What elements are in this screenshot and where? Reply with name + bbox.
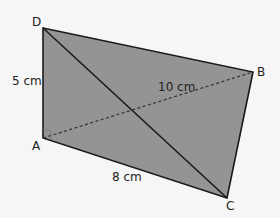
measure-ad: 5 cm (12, 75, 42, 87)
vertex-label-d: D (32, 16, 41, 28)
vertex-label-a: A (32, 140, 40, 152)
shape-fill (43, 28, 253, 198)
measure-ab: 10 cm (158, 81, 195, 93)
vertex-label-c: C (226, 200, 234, 212)
quadrilateral-diagram (0, 0, 280, 218)
vertex-label-b: B (257, 66, 265, 78)
measure-ac: 8 cm (112, 171, 142, 183)
